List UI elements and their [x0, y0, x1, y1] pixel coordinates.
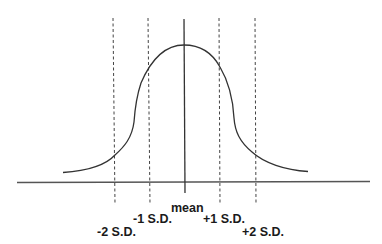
minus-1-sd-line	[148, 18, 150, 205]
minus-1-sd-label: -1 S.D.	[133, 213, 172, 226]
plus-2-sd-label: +2 S.D.	[242, 226, 284, 239]
mean-label: mean	[171, 202, 204, 215]
plus-1-sd-label: +1 S.D.	[203, 213, 245, 226]
plus-2-sd-line	[255, 18, 256, 205]
bell-curve	[63, 45, 308, 173]
minus-2-sd-label: -2 S.D.	[97, 226, 136, 239]
minus-2-sd-line	[113, 18, 115, 205]
plus-1-sd-line	[219, 18, 220, 205]
x-axis	[17, 182, 370, 183]
